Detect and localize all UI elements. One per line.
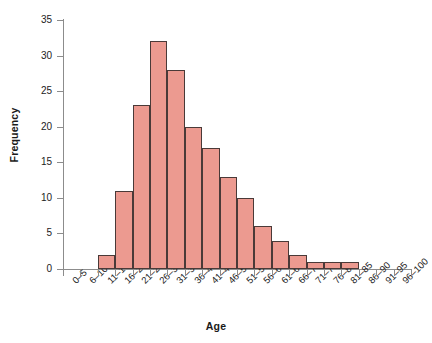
- histogram-bar: [289, 255, 306, 269]
- y-axis-tick-label: 5: [8, 227, 52, 238]
- histogram-bar: [272, 241, 289, 269]
- y-axis-title-text: Frequency: [8, 108, 20, 163]
- x-axis-tick: [80, 270, 81, 276]
- y-axis-tick-label: 10: [8, 192, 52, 203]
- histogram-bar: [202, 148, 219, 269]
- histogram-chart: Frequency 05101520253035 0–56–1011–1516–…: [0, 0, 432, 343]
- histogram-bar: [324, 262, 341, 269]
- x-axis-tick: [272, 270, 273, 276]
- y-axis-tick-label: 30: [8, 50, 52, 61]
- plot-area: [63, 20, 411, 269]
- x-axis-tick: [98, 270, 99, 276]
- histogram-bar: [150, 41, 167, 269]
- x-axis-tick: [341, 270, 342, 276]
- x-axis-tick: [202, 270, 203, 276]
- x-axis-tick: [185, 270, 186, 276]
- x-axis-tick: [411, 270, 412, 276]
- x-axis-tick: [307, 270, 308, 276]
- y-axis-tick-label: 20: [8, 121, 52, 132]
- x-axis-title: Age: [0, 320, 432, 332]
- x-axis-tick: [115, 270, 116, 276]
- histogram-bar: [115, 191, 132, 269]
- histogram-bar: [341, 262, 358, 269]
- x-axis-tick: [359, 270, 360, 276]
- histogram-bar: [254, 226, 271, 269]
- x-axis-tick: [150, 270, 151, 276]
- x-axis-tick: [167, 270, 168, 276]
- histogram-bar: [307, 262, 324, 269]
- x-axis-tick: [289, 270, 290, 276]
- x-axis-tick: [324, 270, 325, 276]
- histogram-bar: [98, 255, 115, 269]
- histogram-bar: [237, 198, 254, 269]
- histogram-bar: [185, 127, 202, 269]
- y-axis-tick-label: 15: [8, 156, 52, 167]
- x-axis-tick: [237, 270, 238, 276]
- x-axis-tick: [133, 270, 134, 276]
- x-axis-tick: [254, 270, 255, 276]
- histogram-bar: [220, 177, 237, 269]
- x-axis-tick: [376, 270, 377, 276]
- y-axis-tick-label: 0: [8, 263, 52, 274]
- histogram-bar: [133, 105, 150, 269]
- histogram-bar: [167, 70, 184, 269]
- x-axis-tick: [63, 270, 64, 276]
- y-axis-tick-label: 25: [8, 85, 52, 96]
- y-axis-tick-label: 35: [8, 14, 52, 25]
- x-axis-tick: [394, 270, 395, 276]
- x-axis-tick: [220, 270, 221, 276]
